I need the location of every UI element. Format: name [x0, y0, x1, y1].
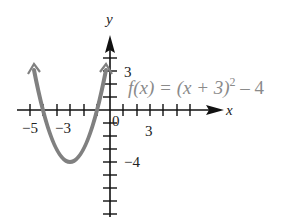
x-axis-label: x: [225, 102, 233, 118]
origin-label: 0: [112, 113, 120, 129]
x-tick-label-neg3: −3: [55, 120, 71, 136]
x-tick-label-neg5: −5: [22, 120, 38, 136]
y-axis-label: y: [104, 11, 113, 27]
y-tick-label-neg4: −4: [124, 154, 140, 170]
x-axis: [17, 104, 224, 116]
x-tick-label-3: 3: [145, 123, 153, 139]
graph-canvas: y x −5 −3 0 3 3 −4 f(x) = (x + 3)2 – 4: [0, 0, 300, 217]
function-equation-label: f(x) = (x + 3)2 – 4: [128, 75, 265, 99]
